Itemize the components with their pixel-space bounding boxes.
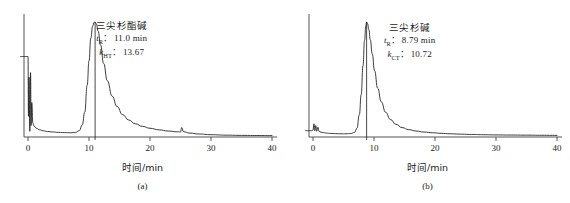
annotation-block-b: 三尖杉碱 tR：8.79 min kCT：10.72 — [384, 22, 435, 61]
capacity-value-b: 10.72 — [411, 49, 432, 59]
compound-name-a: 三尖杉酯碱 — [96, 20, 148, 31]
x-tick-label: 10 — [85, 143, 94, 153]
panel-caption-a: (a) — [138, 181, 148, 191]
x-tick-label: 20 — [146, 143, 155, 153]
x-tick-label: 10 — [370, 143, 379, 153]
capacity-symbol-b: kCT — [387, 49, 399, 59]
capacity-factor-row-a: kHT：13.67 — [96, 47, 148, 59]
capacity-subscript-a: HT — [103, 51, 112, 58]
x-tick-label: 0 — [26, 143, 31, 153]
retention-separator-b: ： — [391, 35, 400, 45]
retention-time-row-b: tR：8.79 min — [384, 35, 435, 47]
panel-a: 三尖杉酯碱 tR：11.0 min kHT：13.67 010203040 时间… — [0, 0, 285, 203]
capacity-separator-b: ： — [400, 49, 409, 59]
retention-time-row-a: tR：11.0 min — [96, 33, 148, 45]
annotation-block-a: 三尖杉酯碱 tR：11.0 min kHT：13.67 — [96, 20, 148, 59]
retention-symbol-a: tR — [96, 33, 103, 43]
compound-name-b: 三尖杉碱 — [384, 22, 435, 33]
x-tick-label: 30 — [492, 143, 501, 153]
retention-symbol-b: tR — [384, 35, 391, 45]
capacity-separator-a: ： — [112, 47, 121, 57]
chromatogram-figure: 三尖杉酯碱 tR：11.0 min kHT：13.67 010203040 时间… — [0, 0, 570, 203]
x-tick-label: 40 — [268, 143, 277, 153]
retention-value-b: 8.79 min — [402, 35, 436, 45]
retention-separator-a: ： — [103, 33, 112, 43]
x-tick-label: 0 — [311, 143, 316, 153]
retention-value-a: 11.0 min — [114, 33, 147, 43]
panel-caption-b: (b) — [422, 181, 433, 191]
capacity-value-a: 13.67 — [123, 47, 144, 57]
x-tick-label: 40 — [553, 143, 562, 153]
x-axis-title-b: 时间/min — [407, 160, 448, 174]
x-tick-label: 30 — [207, 143, 216, 153]
x-axis-title-a: 时间/min — [122, 160, 163, 174]
capacity-symbol-a: kHT — [99, 47, 112, 57]
x-tick-label: 20 — [431, 143, 440, 153]
capacity-subscript-b: CT — [391, 53, 399, 60]
capacity-factor-row-b: kCT：10.72 — [384, 49, 435, 61]
panel-b: 三尖杉碱 tR：8.79 min kCT：10.72 010203040 时间/… — [285, 0, 570, 203]
